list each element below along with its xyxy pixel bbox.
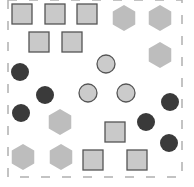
light-circles-group: [79, 55, 135, 102]
shape-canvas: [0, 0, 194, 187]
dark-circle-shape: [161, 93, 179, 111]
light-circle-shape: [117, 84, 135, 102]
dark-circle-shape: [137, 113, 155, 131]
hexagon-shape: [12, 144, 35, 170]
hexagon-shape: [113, 5, 136, 31]
square-shape: [77, 4, 97, 24]
dark-circle-shape: [36, 86, 54, 104]
square-shape: [105, 122, 125, 142]
square-shape: [127, 150, 147, 170]
dark-circle-shape: [160, 134, 178, 152]
square-shape: [62, 32, 82, 52]
hexagon-shape: [149, 5, 172, 31]
hexagon-shape: [149, 42, 172, 68]
square-shape: [29, 32, 49, 52]
square-shape: [83, 150, 103, 170]
dark-circle-shape: [11, 63, 29, 81]
dark-circles-group: [11, 63, 179, 152]
square-shape: [12, 4, 32, 24]
light-circle-shape: [79, 84, 97, 102]
dark-circle-shape: [12, 104, 30, 122]
hexagon-shape: [49, 109, 72, 135]
light-circle-shape: [97, 55, 115, 73]
square-shape: [45, 4, 65, 24]
hexagon-shape: [50, 144, 73, 170]
